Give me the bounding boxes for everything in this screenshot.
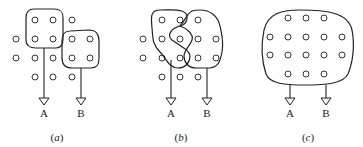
output-arrow-b (76, 68, 86, 105)
receptive-field-shared (262, 10, 353, 85)
unit-grid (267, 15, 345, 77)
output-arrow-a (166, 60, 176, 105)
panel-caption: (b) (175, 131, 188, 144)
panel-c: A B (c) (262, 10, 353, 144)
output-arrow-b (321, 85, 331, 105)
output-label-b: B (322, 107, 329, 119)
output-arrow-a (39, 48, 49, 105)
panel-a: A B (a) (13, 9, 99, 144)
output-arrow-a (285, 85, 295, 105)
receptive-field-a (26, 9, 63, 48)
output-label-b: B (203, 107, 210, 119)
panel-caption: (c) (302, 131, 315, 144)
receptive-field-b (62, 30, 99, 68)
output-label-a: A (286, 107, 294, 119)
output-label-b: B (77, 107, 84, 119)
panel-b: A B (b) (140, 10, 223, 144)
output-label-a: A (40, 107, 48, 119)
panel-caption: (a) (51, 131, 64, 144)
output-arrow-b (202, 68, 212, 105)
receptive-field-diagram: A B (a) A B (b) (0, 0, 363, 147)
output-label-a: A (167, 107, 175, 119)
